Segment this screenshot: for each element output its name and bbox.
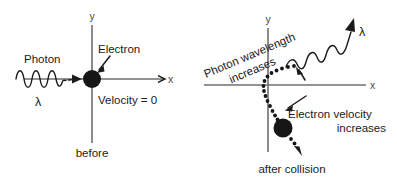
right-panel-after: y x Photon wavelength increases λ xyxy=(202,13,386,175)
electron-dot-after xyxy=(274,119,293,138)
scattered-photon-arrowhead xyxy=(345,18,355,32)
incoming-photon-arrowhead xyxy=(72,75,82,84)
left-x-axis-label: x xyxy=(168,73,174,85)
electron-callout-arrowhead-before xyxy=(97,66,105,74)
caption-before: before xyxy=(76,147,109,159)
left-y-axis-label: y xyxy=(89,10,95,22)
velocity-label-before: Velocity = 0 xyxy=(98,94,157,106)
electron-exit-path xyxy=(289,137,296,145)
electron-label-before: Electron xyxy=(98,43,140,55)
electron-callout-line-after xyxy=(288,96,306,108)
electron-callout-line-before xyxy=(99,56,110,70)
diagram-canvas: y x Photon λ Electron Velocity = 0 befor… xyxy=(0,0,397,180)
right-x-axis-label: x xyxy=(370,79,376,91)
photon-wavelength-text-group: Photon wavelength increases xyxy=(202,31,303,94)
compton-scattering-figure: y x Photon λ Electron Velocity = 0 befor… xyxy=(0,0,397,180)
right-y-axis-label: y xyxy=(265,13,271,25)
lambda-label-after: λ xyxy=(359,25,366,39)
lambda-label-before: λ xyxy=(35,95,42,109)
electron-velocity-line2: increases xyxy=(337,122,386,134)
electron-velocity-line1: Electron velocity xyxy=(288,108,372,120)
left-panel-before: y x Photon λ Electron Velocity = 0 befor… xyxy=(16,10,174,159)
photon-label-before: Photon xyxy=(24,53,60,65)
caption-after: after collision xyxy=(258,163,325,175)
scattered-photon-wave xyxy=(286,32,351,69)
electron-exit-arrowhead xyxy=(294,146,302,156)
electron-dot-before xyxy=(83,70,101,88)
